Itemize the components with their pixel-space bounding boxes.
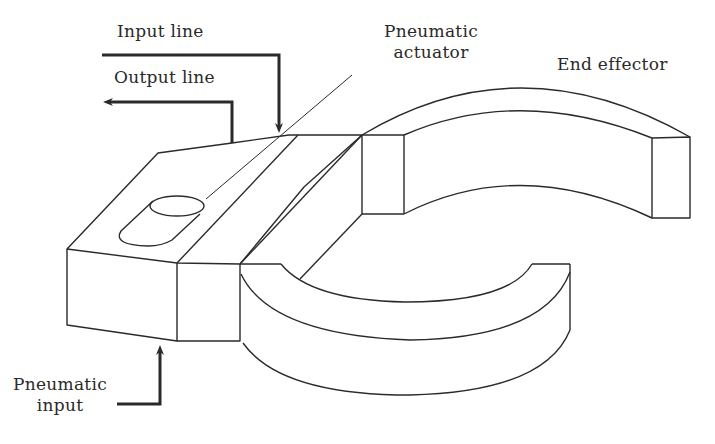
end-effector-label: End effector	[557, 55, 668, 74]
base-front-face-middle	[177, 264, 240, 341]
piston-slot	[119, 201, 200, 246]
lower-arm-top-outer-curve	[241, 272, 570, 340]
end-effector-upper-inner	[404, 111, 652, 138]
end-effector-upper-outer	[362, 88, 690, 137]
output-line-label: Output line	[114, 68, 215, 87]
pneumatic-actuator-label-line2: actuator	[376, 43, 486, 62]
upper-arm-inner-lower-curve	[404, 185, 652, 218]
lower-arm-inner-top-curve	[281, 264, 532, 302]
input-line-label: Input line	[117, 22, 204, 41]
actuator-divider-3	[300, 214, 362, 279]
base-top-face	[67, 135, 362, 264]
pneumatic-input-label-line2: input	[10, 396, 110, 415]
output-line-arrow	[108, 102, 232, 143]
pneumatic-actuator-label-line1: Pneumatic	[376, 22, 486, 41]
piston-top	[150, 196, 204, 216]
pneumatic-input-label-line1: Pneumatic	[10, 375, 110, 394]
upper-arm-right-block	[652, 137, 690, 218]
input-line-arrow	[102, 55, 279, 128]
pneumatic-input-arrow	[117, 350, 160, 404]
base-front-face-left	[67, 249, 177, 341]
